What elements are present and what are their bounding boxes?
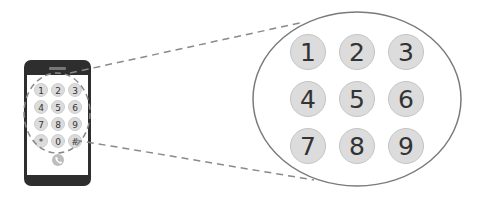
magnified-key-5: 5 [340, 82, 375, 117]
magnified-key-2: 2 [340, 35, 375, 70]
svg-text:3: 3 [72, 86, 78, 96]
magnified-key-6: 6 [389, 82, 424, 117]
phone-key-7: 7 [35, 118, 48, 131]
svg-text:7: 7 [300, 132, 316, 161]
svg-text:4: 4 [300, 85, 316, 114]
magnified-keypad: 123456789 [291, 35, 424, 164]
svg-text:1: 1 [38, 86, 44, 96]
svg-text:0: 0 [55, 137, 61, 147]
phone-call-icon [52, 154, 64, 166]
svg-text:9: 9 [72, 120, 78, 130]
svg-text:6: 6 [398, 85, 414, 114]
phone-key-4: 4 [35, 101, 48, 114]
svg-text:1: 1 [300, 38, 316, 67]
svg-text:9: 9 [398, 132, 414, 161]
phone-key-1: 1 [35, 84, 48, 97]
phone-key-2: 2 [52, 84, 65, 97]
magnified-key-8: 8 [340, 129, 375, 164]
phone-key-*: * [35, 135, 48, 148]
phone-key-3: 3 [69, 84, 82, 97]
magnified-key-7: 7 [291, 129, 326, 164]
phone-key-5: 5 [52, 101, 65, 114]
diagram-canvas: 123456789*0# 123456789 [0, 0, 483, 199]
svg-text:5: 5 [349, 85, 365, 114]
magnified-key-4: 4 [291, 82, 326, 117]
magnified-key-1: 1 [291, 35, 326, 70]
phone-key-8: 8 [52, 118, 65, 131]
svg-text:7: 7 [38, 120, 44, 130]
phone-key-0: 0 [52, 135, 65, 148]
svg-text:2: 2 [55, 86, 61, 96]
svg-text:3: 3 [398, 38, 414, 67]
magnified-key-9: 9 [389, 129, 424, 164]
magnified-key-3: 3 [389, 35, 424, 70]
svg-text:*: * [39, 137, 44, 147]
svg-text:8: 8 [55, 120, 61, 130]
svg-text:6: 6 [72, 103, 78, 113]
svg-text:4: 4 [38, 103, 44, 113]
svg-text:5: 5 [55, 103, 61, 113]
svg-text:2: 2 [349, 38, 365, 67]
phone-key-9: 9 [69, 118, 82, 131]
svg-text:8: 8 [349, 132, 365, 161]
phone-key-6: 6 [69, 101, 82, 114]
